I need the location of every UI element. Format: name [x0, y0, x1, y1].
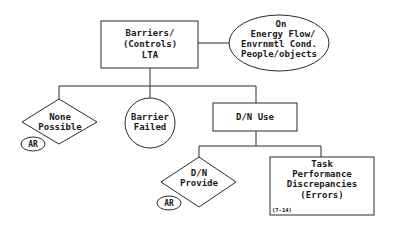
fault-tree-diagram: Barriers/ (Controls) LTA On Energy Flow/…	[0, 0, 394, 226]
node-barrier-failed: Barrier Failed	[125, 98, 175, 148]
node-none-possible-line-1: None	[49, 112, 71, 122]
ar-tag-label: AR	[28, 140, 38, 149]
node-task-line-1: Task	[311, 159, 333, 169]
node-task-line-4: (Errors)	[300, 190, 343, 200]
node-barriers-line-1: Barriers/	[126, 28, 175, 38]
node-barriers-line-2: (Controls)	[123, 39, 177, 49]
node-dn-provide-line-1: D/N	[191, 168, 207, 178]
node-task-line-3: Discrepancies	[287, 179, 357, 189]
node-barrier-failed-line-2: Failed	[134, 122, 167, 132]
ar-tag-label: AR	[164, 199, 174, 208]
node-condition-line-1: On	[276, 19, 287, 29]
node-task-performance: Task Performance Discrepancies (Errors) …	[270, 157, 374, 215]
node-none-possible-line-2: Possible	[38, 122, 82, 132]
node-barriers: Barriers/ (Controls) LTA	[101, 21, 198, 68]
node-condition-line-3: Envrnmtl Cond.	[241, 39, 317, 49]
ar-tag-dn-provide: AR	[157, 196, 181, 210]
node-task-line-2: Performance	[292, 169, 352, 179]
node-condition-line-4: People/objects	[241, 49, 317, 59]
ar-tag-none-possible: AR	[21, 137, 45, 151]
node-dn-use-line-1: D/N Use	[236, 112, 275, 122]
node-on-condition: On Energy Flow/ Envrnmtl Cond. People/ob…	[229, 15, 329, 71]
node-task-ref: (7-14)	[272, 207, 292, 213]
node-barriers-line-3: LTA	[142, 50, 159, 60]
node-dn-use: D/N Use	[213, 103, 297, 131]
node-barrier-failed-line-1: Barrier	[131, 112, 170, 122]
node-dn-provide-line-2: Provide	[180, 178, 219, 188]
node-condition-line-2: Energy Flow/	[250, 29, 315, 39]
